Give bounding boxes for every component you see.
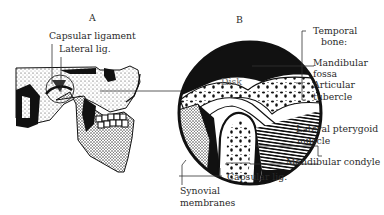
label-articular-tubercle-1: Articular xyxy=(313,80,355,91)
label-mandibular-fossa-2: fossa xyxy=(313,69,337,80)
skull-illustration xyxy=(16,66,140,172)
label-synovial-2: membranes xyxy=(180,198,235,209)
label-mandibular-fossa-1: Mandibular xyxy=(313,58,368,69)
label-capsular-ligament: Capsular ligament xyxy=(49,31,136,42)
label-articular-tubercle-2: tubercle xyxy=(313,92,352,103)
label-synovial-1: Synovial xyxy=(180,186,220,197)
label-lateral-pterygoid-2: muscle xyxy=(297,136,330,147)
label-mandibular-condyle: Mandibular condyle xyxy=(286,157,380,168)
label-lateral-lig: Lateral lig. xyxy=(59,44,111,55)
label-lateral-pterygoid-1: Lateral pterygoid xyxy=(296,124,378,135)
panel-b-letter: B xyxy=(236,15,243,26)
label-disk: Disk xyxy=(221,77,242,88)
label-temporal-bone-2: bone: xyxy=(321,37,347,48)
teeth xyxy=(96,114,128,128)
label-capsular-lig: Capsular lig. xyxy=(227,172,287,183)
label-temporal-bone-1: Temporal xyxy=(313,26,357,37)
panel-a-letter: A xyxy=(89,13,96,24)
